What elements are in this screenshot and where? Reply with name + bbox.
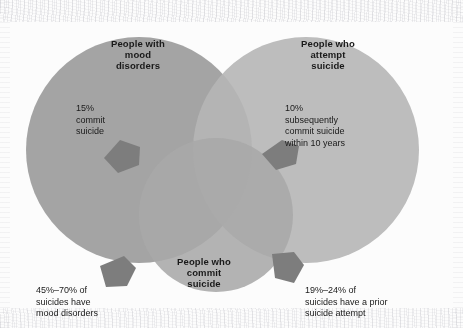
- annotation-right-caption: 19%–24% of suicides have a prior suicide…: [305, 285, 445, 320]
- annotation-left-stat: 15% commit suicide: [76, 103, 156, 138]
- venn-diagram-canvas: People with mood disorders People who at…: [0, 0, 463, 328]
- annotation-left-caption: 45%–70% of suicides have mood disorders: [36, 285, 146, 320]
- circle-title-mood-disorders: People with mood disorders: [78, 38, 198, 72]
- annotation-right-stat: 10% subsequently commit suicide within 1…: [285, 103, 395, 149]
- circle-title-commit-suicide: People who commit suicide: [148, 256, 260, 290]
- circle-title-attempt-suicide: People who attempt suicide: [268, 38, 388, 72]
